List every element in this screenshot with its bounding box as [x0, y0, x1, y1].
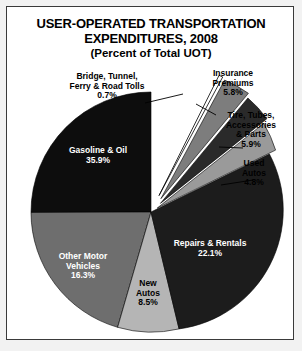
pie-label-gasoline-value: 35.9% [43, 156, 153, 166]
chart-figure-panel: USER-OPERATED TRANSPORTATION EXPENDITURE… [6, 6, 294, 340]
pie-label-gasoline: Gasoline & Oil 35.9% [43, 146, 153, 165]
pie-chart: Gasoline & Oil 35.9% Other Motor Vehicle… [7, 7, 294, 340]
pie-label-new-autos: New Autos 8.5% [120, 279, 176, 308]
pie-label-insurance-value: 5.8% [198, 88, 268, 98]
pie-label-new-autos-value: 8.5% [120, 298, 176, 308]
pie-label-used-autos-value: 4.8% [223, 178, 285, 188]
pie-label-tires-tubes-accessories: Tire, Tubes, Accessories & Parts 5.9% [213, 111, 289, 149]
pie-label-repairs-rentals: Repairs & Rentals 22.1% [155, 239, 265, 258]
pie-label-repairs-rentals-value: 22.1% [155, 249, 265, 259]
pie-label-bridge-tunnel-ferry-road-tolls: Bridge, Tunnel, Ferry & Road Tolls 0.7% [67, 72, 147, 101]
pie-label-other-motor-vehicles: Other Motor Vehicles 16.3% [28, 252, 138, 281]
pie-label-insurance-premiums: Insurance Premiums 5.8% [198, 69, 268, 98]
pie-label-tolls-value: 0.7% [67, 91, 147, 101]
pie-label-tires-value: 5.9% [213, 140, 289, 150]
pie-label-used-autos: Used Autos 4.8% [223, 159, 285, 188]
